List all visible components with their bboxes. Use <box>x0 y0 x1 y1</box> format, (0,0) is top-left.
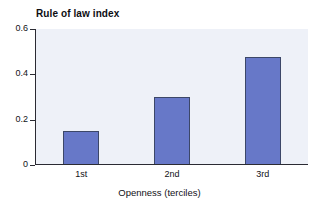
y-axis-tick-label: 0.6 <box>15 24 28 33</box>
x-axis-tick-label: 2nd <box>142 169 202 179</box>
y-axis-line <box>35 29 36 165</box>
y-axis-tick-label: 0.2 <box>15 115 28 124</box>
x-axis-tick-label: 1st <box>51 169 111 179</box>
x-axis-title: Openness (terciles) <box>0 187 319 198</box>
y-axis-tick <box>30 74 35 75</box>
y-axis-tick-label: 0 <box>23 160 28 169</box>
plot-area <box>36 29 308 165</box>
chart-title: Rule of law index <box>36 8 119 19</box>
y-axis-tick <box>30 165 35 166</box>
y-axis-tick-label: 0.4 <box>15 69 28 78</box>
bar-3rd <box>245 57 281 165</box>
bar-1st <box>63 131 99 165</box>
x-axis-tick-label: 3rd <box>233 169 293 179</box>
y-axis-tick <box>30 120 35 121</box>
y-axis-tick <box>30 29 35 30</box>
x-axis-line <box>35 164 308 165</box>
figure-panel-a: Rule of law index (a) 00.20.40.6 1st2nd3… <box>0 0 319 206</box>
bar-2nd <box>154 97 190 165</box>
